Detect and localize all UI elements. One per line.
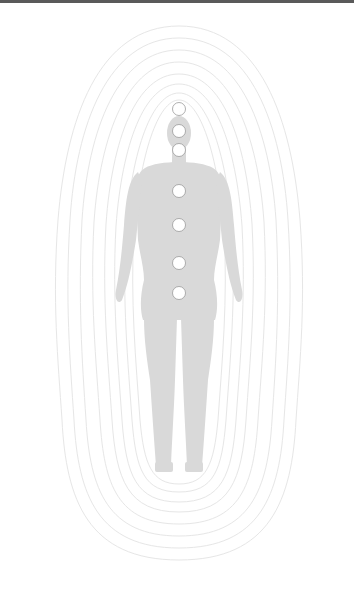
- aura-figure-illustration: [0, 0, 354, 592]
- sacral-chakra: [173, 257, 186, 270]
- solar-plexus-chakra: [173, 219, 186, 232]
- root-chakra: [173, 287, 186, 300]
- throat-chakra: [173, 144, 186, 157]
- heart-chakra: [173, 185, 186, 198]
- crown-chakra: [173, 103, 186, 116]
- third-eye-chakra: [173, 125, 186, 138]
